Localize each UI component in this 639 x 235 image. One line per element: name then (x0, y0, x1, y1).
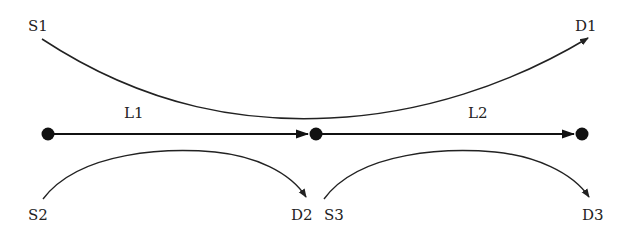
network-diagram (0, 0, 639, 235)
node-1 (42, 128, 55, 141)
destination-label-d3: D3 (582, 208, 604, 223)
source-label-s2: S2 (28, 208, 48, 223)
link-label-l1: L1 (124, 106, 144, 121)
source-label-s3: S3 (324, 208, 344, 223)
flow-s2-d2-arrow (43, 151, 306, 199)
destination-label-d2: D2 (291, 208, 313, 223)
source-label-s1: S1 (28, 19, 48, 34)
destination-label-d1: D1 (575, 19, 597, 34)
link-label-l2: L2 (468, 106, 488, 121)
node-3 (576, 128, 589, 141)
flow-s3-d3-arrow (324, 151, 589, 199)
node-2 (310, 128, 323, 141)
